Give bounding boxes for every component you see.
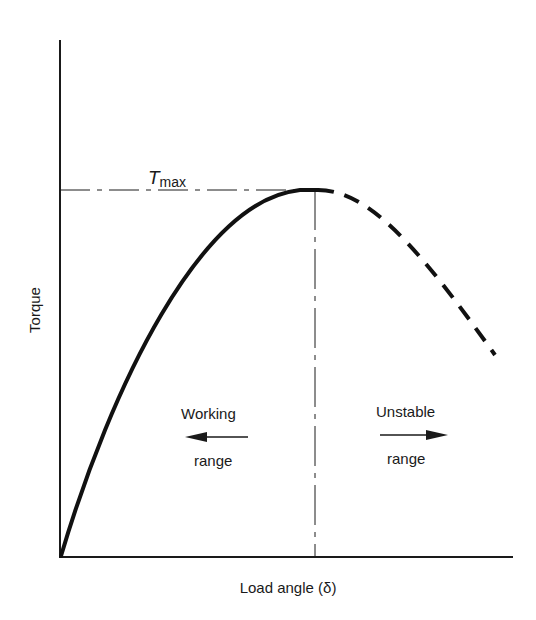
working-range-curve — [61, 190, 318, 556]
left-arrow-icon — [185, 432, 207, 442]
unstable-label: Unstable — [376, 403, 435, 420]
right-arrow-icon — [426, 430, 448, 440]
unstable-range-label: range — [387, 450, 425, 467]
unstable-range-curve — [318, 190, 495, 355]
torque-load-angle-chart: Tmax Working range Unstable range Torque… — [0, 0, 536, 620]
tmax-label: Tmax — [148, 167, 186, 190]
y-axis-label: Torque — [26, 287, 43, 333]
working-range-label: range — [194, 452, 232, 469]
x-axis-label: Load angle (δ) — [240, 579, 337, 596]
working-label: Working — [181, 405, 236, 422]
